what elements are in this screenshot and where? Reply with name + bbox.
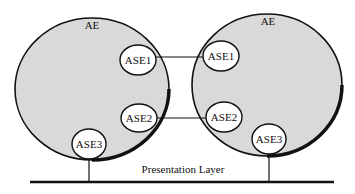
right-ase1: ASE1 [203,41,239,71]
right-ae-label: AE [261,15,276,27]
left-ase2-label: ASE2 [126,112,152,124]
left-ase3: ASE3 [72,129,106,159]
left-ae-label: AE [85,19,100,31]
right-ase3: ASE3 [252,124,286,154]
right-ase2-label: ASE2 [211,111,237,123]
right-ase2: ASE2 [206,102,242,132]
presentation-layer-label: Presentation Layer [142,163,225,175]
application-entities-diagram: AE AE ASE1 ASE2 ASE3 ASE1 ASE2 ASE3 Pres… [0,0,355,194]
left-ase1: ASE1 [120,45,156,75]
right-ase3-label: ASE3 [256,133,283,145]
right-ase1-label: ASE1 [208,50,234,62]
left-ase1-label: ASE1 [125,54,151,66]
left-ase3-label: ASE3 [76,138,103,150]
left-ase2: ASE2 [121,104,157,132]
